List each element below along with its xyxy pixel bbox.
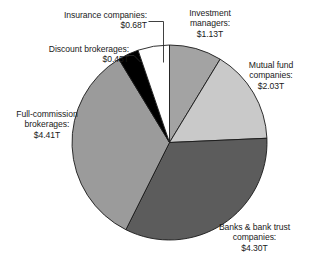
pie-chart: Insurance companies: $0.68T Discount bro… (0, 0, 313, 273)
slice-label-mutual-fund-companies-value: $2.03T (231, 81, 311, 91)
slice-label-full-commission-brokerages-name-2: brokerages: (4, 119, 90, 129)
slice-label-mutual-fund-companies-name-2: companies: (231, 70, 311, 80)
slice-label-insurance-companies-name: Insurance companies: (64, 10, 147, 20)
slice-label-mutual-fund-companies-name-1: Mutual fund (231, 60, 311, 70)
slice-label-full-commission-brokerages-value: $4.41T (4, 130, 90, 140)
slice-label-banks-name-2: companies: (198, 232, 311, 242)
slice-label-banks-and-bank-trust-companies: Banks & bank trust companies: $4.30T (198, 222, 311, 253)
slice-label-banks-value: $4.30T (198, 243, 311, 253)
slice-label-full-commission-brokerages-name-1: Full-commission (4, 109, 90, 119)
slice-label-banks-name-1: Banks & bank trust (198, 222, 311, 232)
slice-label-investment-managers-value: $1.13T (170, 29, 250, 39)
slice-label-mutual-fund-companies: Mutual fund companies: $2.03T (231, 60, 311, 91)
slice-label-insurance-companies-value: $0.68T (64, 20, 147, 30)
slice-label-investment-managers-name-2: managers: (170, 18, 250, 28)
slice-label-discount-brokerages-value: $0.45T (49, 54, 129, 64)
slice-label-investment-managers: Investment managers: $1.13T (170, 8, 250, 39)
slice-label-insurance-companies: Insurance companies: $0.68T (64, 10, 147, 31)
slice-label-discount-brokerages: Discount brokerages: $0.45T (49, 44, 129, 65)
slice-label-full-commission-brokerages: Full-commission brokerages: $4.41T (4, 109, 90, 140)
slice-label-discount-brokerages-name: Discount brokerages: (49, 44, 129, 54)
slice-label-investment-managers-name-1: Investment (170, 8, 250, 18)
